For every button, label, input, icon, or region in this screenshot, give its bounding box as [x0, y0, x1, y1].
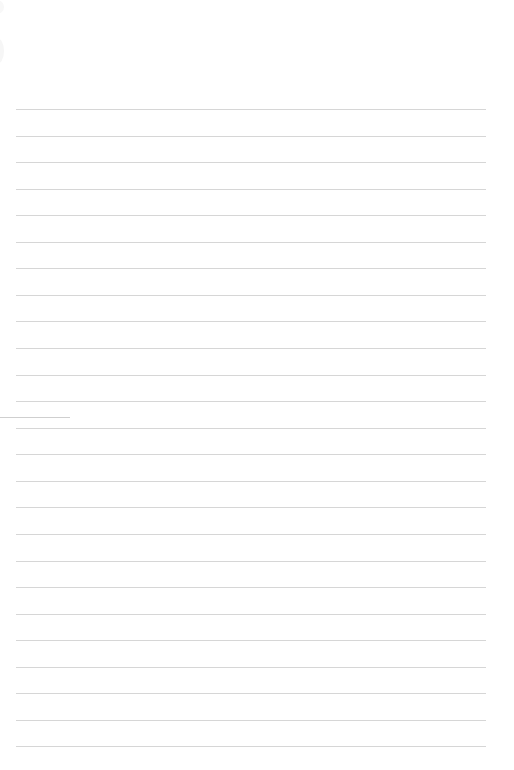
lined-paper-page: [0, 0, 514, 770]
margin-mark-line: [0, 417, 70, 418]
ruled-line: [16, 162, 486, 163]
ruled-line: [16, 481, 486, 482]
ruled-line: [16, 693, 486, 694]
hole-punch-shadow: [0, 38, 4, 64]
ruled-line: [16, 746, 486, 747]
ruled-line: [16, 667, 486, 668]
ruled-line: [16, 587, 486, 588]
ruled-line: [16, 640, 486, 641]
edge-shadow-top: [0, 0, 4, 14]
ruled-line: [16, 454, 486, 455]
ruled-line: [16, 614, 486, 615]
ruled-line: [16, 348, 486, 349]
ruled-line: [16, 428, 486, 429]
ruled-line: [16, 189, 486, 190]
ruled-line: [16, 242, 486, 243]
ruled-line: [16, 375, 486, 376]
ruled-line: [16, 109, 486, 110]
ruled-line: [16, 215, 486, 216]
ruled-line: [16, 321, 486, 322]
ruled-line: [16, 268, 486, 269]
ruled-line: [16, 534, 486, 535]
ruled-line: [16, 561, 486, 562]
ruled-line: [16, 720, 486, 721]
ruled-line: [16, 136, 486, 137]
ruled-line: [16, 295, 486, 296]
ruled-line: [16, 401, 486, 402]
ruled-line: [16, 507, 486, 508]
